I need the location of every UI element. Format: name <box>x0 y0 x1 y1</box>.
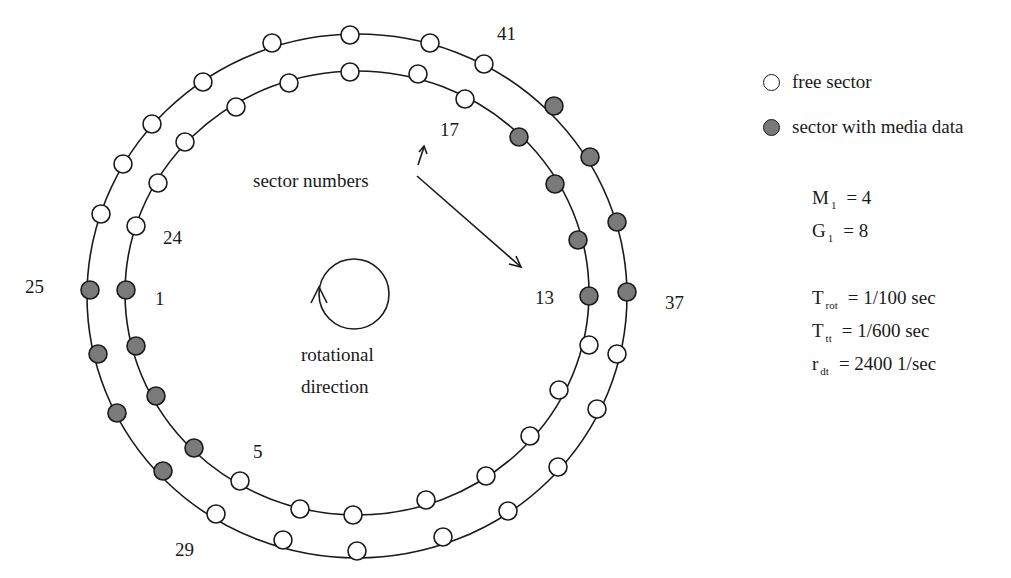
free-sector-icon <box>231 472 249 490</box>
legend-media-label: sector with media data <box>792 116 963 138</box>
legend-free-label: free sector <box>792 71 872 93</box>
param-rdt-symbol: r <box>812 353 818 374</box>
free-sector-icon <box>421 34 439 52</box>
media-sector-icon <box>81 281 99 299</box>
media-sector-icon <box>608 213 626 231</box>
legend-free-sector: free sector <box>763 71 872 93</box>
sector-number-24: 24 <box>163 228 182 247</box>
free-sector-icon <box>550 381 568 399</box>
media-sector-icon <box>147 387 165 405</box>
param-trot: Trot= 1/100 sec <box>812 288 936 311</box>
free-sector-icon <box>194 73 212 91</box>
param-m1-symbol: M <box>812 187 829 208</box>
param-rdt-value: = 2400 1/sec <box>839 353 936 374</box>
param-trot-sub: rot <box>826 299 838 311</box>
free-sector-icon <box>143 115 161 133</box>
param-g1-value: = 8 <box>843 220 868 241</box>
param-trot-symbol: T <box>812 287 824 308</box>
free-sector-icon <box>521 427 539 445</box>
free-sector-icon <box>274 531 292 549</box>
free-sector-icon <box>149 174 167 192</box>
param-rdt-sub: dt <box>820 365 829 377</box>
param-ttt-symbol: T <box>812 320 824 341</box>
free-sector-icon <box>92 205 110 223</box>
param-g1-sub: 1 <box>828 232 834 244</box>
free-sector-icon <box>549 458 567 476</box>
free-sector-icon <box>588 400 606 418</box>
param-m1-value: = 4 <box>846 187 871 208</box>
free-sector-icon <box>608 345 626 363</box>
legend-media-sector: sector with media data <box>763 116 963 138</box>
rotation-direction-icon <box>311 259 389 329</box>
sector-number-13: 13 <box>535 288 554 307</box>
media-sector-icon <box>546 175 564 193</box>
media-sector-swatch-icon <box>763 119 780 136</box>
param-m1-sub: 1 <box>831 199 837 211</box>
free-sector-icon <box>434 528 452 546</box>
param-ttt-sub: tt <box>826 332 832 344</box>
media-sector-icon <box>185 439 203 457</box>
media-sector-icon <box>127 337 145 355</box>
sector-number-41: 41 <box>497 24 516 43</box>
media-sector-icon <box>569 231 587 249</box>
param-m1: M1= 4 <box>812 188 871 211</box>
param-rdt: rdt= 2400 1/sec <box>812 354 936 377</box>
free-sector-swatch-icon <box>763 74 780 91</box>
free-sector-icon <box>263 34 281 52</box>
media-sector-icon <box>117 281 135 299</box>
free-sector-icon <box>280 74 298 92</box>
free-sector-icon <box>409 65 427 83</box>
param-ttt-value: = 1/600 sec <box>842 320 930 341</box>
free-sector-icon <box>580 336 598 354</box>
rotational-label: rotational <box>301 345 374 364</box>
free-sector-icon <box>127 217 145 235</box>
free-sector-icon <box>477 467 495 485</box>
free-sector-icon <box>417 491 435 509</box>
free-sector-icon <box>207 505 225 523</box>
param-trot-value: = 1/100 sec <box>848 287 936 308</box>
sector-number-37: 37 <box>665 293 684 312</box>
direction-label: direction <box>301 377 369 396</box>
media-sector-icon <box>154 462 172 480</box>
media-sector-icon <box>510 128 528 146</box>
sector-number-5: 5 <box>253 442 263 461</box>
free-sector-icon <box>227 98 245 116</box>
sector-number-17: 17 <box>440 120 459 139</box>
free-sector-icon <box>475 55 493 73</box>
sector-number-1: 1 <box>155 289 165 308</box>
media-sector-icon <box>89 345 107 363</box>
free-sector-icon <box>176 133 194 151</box>
free-sector-icon <box>291 500 309 518</box>
media-sector-icon <box>581 148 599 166</box>
param-g1: G1= 8 <box>812 221 868 244</box>
free-sector-icon <box>114 155 132 173</box>
free-sector-icon <box>341 63 359 81</box>
media-sector-icon <box>545 97 563 115</box>
media-sector-icon <box>618 283 636 301</box>
free-sector-icon <box>499 502 517 520</box>
sector-number-25: 25 <box>25 277 44 296</box>
param-g1-symbol: G <box>812 220 826 241</box>
media-sector-icon <box>580 287 598 305</box>
media-sector-icon <box>108 404 126 422</box>
param-ttt: Ttt= 1/600 sec <box>812 321 930 344</box>
free-sector-icon <box>456 90 474 108</box>
free-sector-icon <box>348 542 366 560</box>
free-sector-icon <box>344 506 362 524</box>
sector-number-29: 29 <box>175 540 194 559</box>
arrow-to-13 <box>417 176 521 267</box>
free-sector-icon <box>341 26 359 44</box>
sector-numbers-arrows <box>417 146 521 267</box>
sector-numbers-label: sector numbers <box>253 171 369 190</box>
